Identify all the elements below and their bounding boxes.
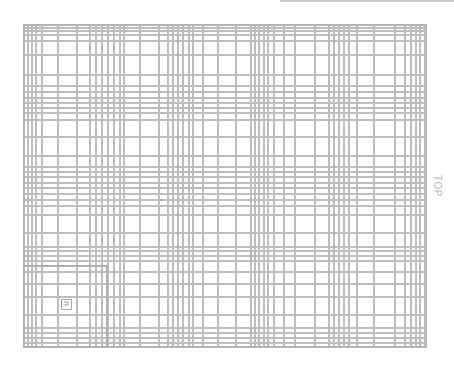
- grid-horizontal-line: [25, 74, 425, 76]
- grid-horizontal-line: [25, 27, 425, 29]
- grid-horizontal-line: [25, 260, 425, 262]
- grid-horizontal-line: [25, 102, 425, 104]
- grid-horizontal-line: [25, 255, 425, 257]
- grid-horizontal-line: [25, 54, 425, 56]
- grid-horizontal-line: [25, 166, 425, 168]
- grid-horizontal-line: [25, 205, 425, 207]
- grid-horizontal-line: [25, 232, 425, 234]
- grid-horizontal-line: [25, 214, 425, 216]
- grid-horizontal-line: [25, 187, 425, 189]
- grid-horizontal-line: [25, 107, 425, 109]
- grid-horizontal-line: [25, 176, 425, 178]
- grid-horizontal-line: [25, 40, 425, 42]
- grid-horizontal-line: [25, 136, 425, 138]
- grid-horizontal-line: [25, 199, 425, 201]
- grid-horizontal-line: [25, 155, 425, 157]
- grid-horizontal-line: [25, 182, 425, 184]
- grid-horizontal-line: [25, 171, 425, 173]
- grid-horizontal-line: [25, 97, 425, 99]
- grid-horizontal-line: [25, 112, 425, 114]
- grid-horizontal-line: [25, 91, 425, 93]
- grid-horizontal-line: [25, 85, 425, 87]
- corner-arrow-icon[interactable]: [61, 299, 72, 310]
- corner-arrow-glyph: [62, 300, 71, 309]
- grid-horizontal-line: [25, 34, 425, 36]
- side-label-top: TOP: [426, 175, 448, 197]
- grid-horizontal-line: [25, 30, 425, 32]
- grid-horizontal-line: [25, 119, 425, 121]
- grid-horizontal-line: [25, 250, 425, 252]
- grid-horizontal-line: [25, 193, 425, 195]
- grid-horizontal-line: [25, 246, 425, 248]
- top-edge-divider: [280, 0, 454, 2]
